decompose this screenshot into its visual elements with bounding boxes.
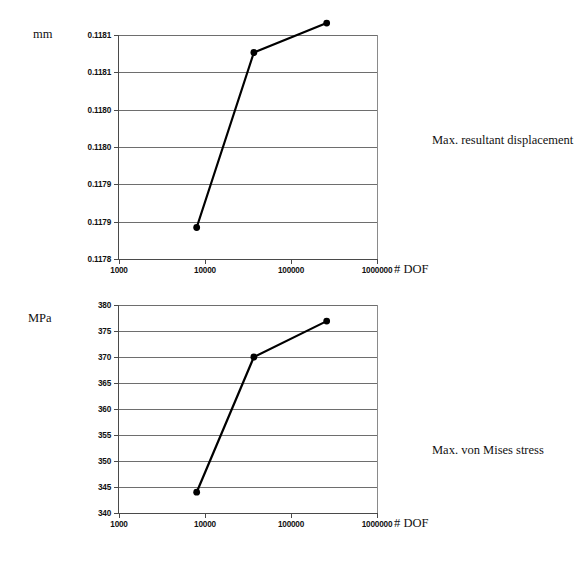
x-axis-title-displacement: # DOF [394, 262, 428, 277]
y-axis-tick-label: 340 [98, 509, 111, 518]
x-axis-tick-label: 1000000 [362, 520, 392, 529]
x-axis-tick-label: 10000 [194, 266, 216, 275]
plot-area-displacement: 0.11810.11810.11800.11800.11790.11790.11… [118, 35, 378, 260]
series-layer [119, 35, 377, 259]
data-point-marker [323, 318, 330, 325]
caption-max-von-mises-stress: Max. von Mises stress [432, 443, 544, 458]
x-axis-tick [291, 513, 292, 518]
y-axis-unit-label: mm [33, 27, 52, 42]
x-axis-tick [119, 513, 120, 518]
y-axis-tick-label: 0.1178 [88, 255, 111, 264]
data-point-marker [250, 49, 257, 56]
x-axis-tick [377, 513, 378, 518]
y-axis-unit-label: MPa [28, 311, 52, 326]
data-point-marker [250, 354, 257, 361]
y-axis-tick-label: 365 [98, 379, 111, 388]
x-axis-tick-label: 1000 [110, 520, 127, 529]
chart-displacement: mm 0.11810.11810.11800.11800.11790.11790… [0, 0, 578, 288]
x-axis-tick-label: 1000000 [362, 266, 392, 275]
series-line [197, 321, 327, 492]
x-axis-tick [377, 259, 378, 264]
y-axis-tick-label: 0.1181 [88, 68, 111, 77]
data-point-marker [193, 224, 200, 231]
y-axis-tick-label: 0.1179 [88, 180, 111, 189]
plot-area-von-mises-stress: 3803753703653603553503453401000100001000… [118, 305, 378, 514]
y-axis-tick-label: 0.1181 [88, 31, 111, 40]
x-axis-tick-label: 100000 [278, 520, 304, 529]
y-axis-tick-label: 375 [98, 327, 111, 336]
x-axis-tick [119, 259, 120, 264]
chart-von-mises-stress: MPa 380375370365360355350345340100010000… [0, 288, 578, 576]
y-axis-tick-label: 355 [98, 431, 111, 440]
x-axis-tick-label: 100000 [278, 266, 304, 275]
y-axis-tick-label: 350 [98, 457, 111, 466]
series-line [197, 23, 327, 227]
series-layer [119, 305, 377, 513]
y-axis-tick-label: 0.1180 [88, 143, 111, 152]
x-axis-tick [291, 259, 292, 264]
caption-max-resultant-displacement: Max. resultant displacement [432, 133, 573, 148]
data-point-marker [193, 489, 200, 496]
x-axis-tick [205, 259, 206, 264]
y-axis-tick-label: 380 [98, 301, 111, 310]
x-axis-tick [205, 513, 206, 518]
y-axis-tick-label: 345 [98, 483, 111, 492]
data-point-marker [323, 20, 330, 27]
y-axis-tick-label: 360 [98, 405, 111, 414]
x-axis-tick-label: 1000 [110, 266, 127, 275]
y-axis-tick-label: 370 [98, 353, 111, 362]
y-axis-tick-label: 0.1179 [88, 217, 111, 226]
y-axis-tick-label: 0.1180 [88, 105, 111, 114]
x-axis-title-stress: # DOF [394, 516, 428, 531]
x-axis-tick-label: 10000 [194, 520, 216, 529]
